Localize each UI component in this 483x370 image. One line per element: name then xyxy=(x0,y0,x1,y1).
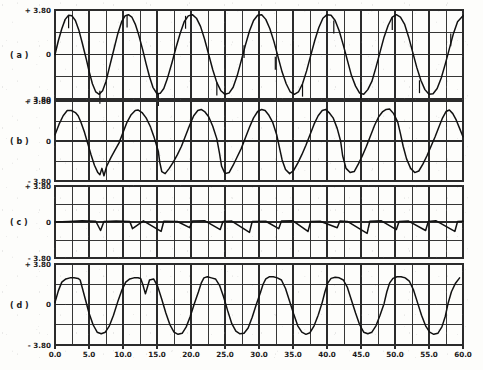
panel-c: + 3.800- 3.80( c ) xyxy=(10,182,463,263)
x-axis-tick-label: 45.0 xyxy=(352,350,370,359)
y-axis-tick-label: - 3.80 xyxy=(28,341,51,350)
y-axis-tick-label: + 3.80 xyxy=(25,260,51,269)
x-axis-tick-label: 0.0 xyxy=(49,350,62,359)
x-axis-tick-label: 25.0 xyxy=(216,350,234,359)
x-axis-tick-label: 35.0 xyxy=(284,350,302,359)
y-axis-tick-label: + 3.80 xyxy=(25,182,51,191)
waveform-trace xyxy=(55,277,460,335)
y-axis-tick-label: 0 xyxy=(46,50,51,59)
x-axis-tick-label: 15.0 xyxy=(148,350,166,359)
y-axis-tick-label: 0 xyxy=(46,300,51,309)
x-axis-tick-label: 5.0 xyxy=(83,350,96,359)
multi-panel-plot: + 3.800- 3.80( a )+ 3.800- 3.80( b )+ 3.… xyxy=(0,0,483,370)
oscillogram-figure: + 3.800- 3.80( a )+ 3.800- 3.80( b )+ 3.… xyxy=(0,0,483,370)
panel-a: + 3.800- 3.80( a ) xyxy=(10,6,463,108)
x-axis: 0.05.010.015.020.025.030.035.040.045.050… xyxy=(49,345,472,359)
y-axis-tick-label: + 3.80 xyxy=(25,6,51,15)
x-axis-tick-label: 55.0 xyxy=(420,350,438,359)
x-axis-tick-label: 10.0 xyxy=(114,350,132,359)
x-axis-tick-label: 30.0 xyxy=(250,350,268,359)
panel-b: + 3.800- 3.80( b ) xyxy=(10,97,463,186)
panel-label-a: ( a ) xyxy=(10,51,28,60)
panel-label-b: ( b ) xyxy=(10,137,29,146)
x-axis-tick-label: 40.0 xyxy=(318,350,336,359)
x-axis-tick-label: 50.0 xyxy=(386,350,404,359)
x-axis-tick-label: 60.0 xyxy=(454,350,472,359)
x-axis-tick-label: 20.0 xyxy=(182,350,200,359)
panel-d: + 3.800- 3.80( d ) xyxy=(10,260,463,350)
y-axis-tick-label: 0 xyxy=(46,137,51,146)
y-axis-tick-label: 0 xyxy=(46,218,51,227)
y-axis-tick-label: + 3.80 xyxy=(25,97,51,106)
panel-label-c: ( c ) xyxy=(10,218,28,227)
panel-label-d: ( d ) xyxy=(10,301,29,310)
